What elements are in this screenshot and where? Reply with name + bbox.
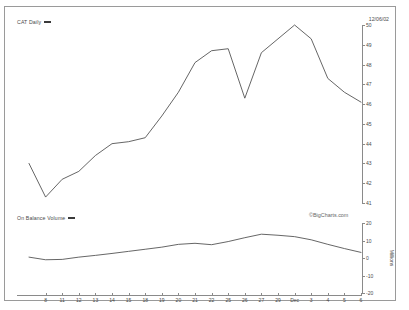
price-axis-line (362, 25, 363, 203)
x-axis-tick-label: 12 (76, 297, 82, 303)
obv-legend-swatch (68, 217, 75, 219)
price-plot-area (29, 25, 361, 203)
price-y-tick-mark (362, 84, 365, 85)
x-axis-tick-mark (195, 293, 196, 296)
price-y-tick-mark (362, 65, 365, 66)
obv-y-tick-mark (362, 293, 365, 294)
x-axis-tick-mark (79, 293, 80, 296)
obv-y-tick-label: -10 (366, 273, 373, 279)
x-axis-tick-label: 27 (259, 297, 265, 303)
x-axis-tick-mark (245, 293, 246, 296)
x-axis-tick-label: 18 (142, 297, 148, 303)
x-axis-tick-mark (46, 293, 47, 296)
obv-y-tick-label: 0 (366, 255, 369, 261)
x-axis-tick-label: 13 (93, 297, 99, 303)
price-y-tick-label: 50 (366, 22, 372, 28)
price-legend-swatch (44, 21, 51, 23)
obv-line-series (29, 234, 361, 260)
x-axis-tick-label: 21 (192, 297, 198, 303)
obv-legend-label: On Balance Volume (17, 215, 65, 221)
price-line-series (29, 25, 361, 197)
x-axis-tick-mark (261, 293, 262, 296)
x-axis-tick-label: 4 (326, 297, 329, 303)
price-y-tick-label: 47 (366, 81, 372, 87)
price-y-tick-mark (362, 124, 365, 125)
price-y-tick-mark (362, 104, 365, 105)
obv-y-tick-mark (362, 276, 365, 277)
price-y-tick-mark (362, 144, 365, 145)
obv-y-tick-label: -20 (366, 290, 373, 296)
x-axis-tick-mark (295, 293, 296, 296)
x-axis-tick-label: 8 (44, 297, 47, 303)
x-axis-tick-label: Dec (290, 297, 299, 303)
x-axis-tick-mark (95, 293, 96, 296)
x-axis-tick-label: 29 (275, 297, 281, 303)
price-y-tick-label: 42 (366, 180, 372, 186)
obv-y-tick-label: 10 (366, 238, 372, 244)
x-axis-tick-mark (129, 293, 130, 296)
x-axis-tick-mark (112, 293, 113, 296)
x-axis-tick-mark (145, 293, 146, 296)
x-axis-tick-mark (361, 293, 362, 296)
x-axis-tick-label: 22 (209, 297, 215, 303)
obv-y-tick-mark (362, 258, 365, 259)
x-axis-tick-label: 25 (225, 297, 231, 303)
obv-plot-area (29, 223, 361, 293)
x-axis-tick-label: 5 (343, 297, 346, 303)
price-y-tick-label: 41 (366, 200, 372, 206)
volume-units-label: Millions (389, 250, 395, 267)
x-axis-tick-mark (212, 293, 213, 296)
x-axis-tick-mark (344, 293, 345, 296)
chart-frame: CAT Daily 12/06/02 On Balance Volume ©Bi… (4, 6, 396, 301)
x-axis-tick-label: 19 (159, 297, 165, 303)
bigcharts-watermark: ©BigCharts.com (309, 212, 348, 218)
obv-y-tick-mark (362, 241, 365, 242)
x-axis-tick-label: 26 (242, 297, 248, 303)
obv-y-tick-mark (362, 223, 365, 224)
x-axis-tick-mark (228, 293, 229, 296)
x-axis-tick-label: 11 (60, 297, 65, 303)
x-axis-tick-label: 6 (360, 297, 363, 303)
x-axis-tick-mark (311, 293, 312, 296)
x-axis-tick-label: 3 (310, 297, 313, 303)
price-y-tick-label: 45 (366, 121, 372, 127)
x-axis-tick-mark (162, 293, 163, 296)
x-axis-tick-label: 20 (176, 297, 182, 303)
price-y-tick-mark (362, 183, 365, 184)
x-axis-tick-mark (62, 293, 63, 296)
obv-series-legend: On Balance Volume (17, 215, 75, 221)
obv-y-tick-label: 20 (366, 220, 372, 226)
price-y-tick-label: 49 (366, 42, 372, 48)
price-y-tick-mark (362, 203, 365, 204)
x-axis-tick-mark (278, 293, 279, 296)
x-axis-tick-mark (178, 293, 179, 296)
price-y-tick-label: 44 (366, 141, 372, 147)
x-axis-tick-mark (328, 293, 329, 296)
price-y-tick-label: 43 (366, 160, 372, 166)
x-axis-tick-label: 15 (126, 297, 132, 303)
price-y-tick-mark (362, 163, 365, 164)
x-axis-tick-label: 14 (109, 297, 115, 303)
price-y-tick-label: 48 (366, 62, 372, 68)
price-y-tick-mark (362, 25, 365, 26)
price-y-tick-label: 46 (366, 101, 372, 107)
price-y-tick-mark (362, 45, 365, 46)
